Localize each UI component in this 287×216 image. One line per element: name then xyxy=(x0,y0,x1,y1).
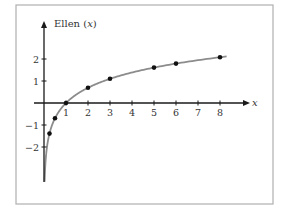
x-tick-label: 5 xyxy=(151,107,157,118)
x-tick-label: 7 xyxy=(195,107,201,118)
data-point xyxy=(108,77,113,82)
chart: 12345678−2−112 Ellen (x) x xyxy=(0,0,287,216)
x-axis-arrow-icon xyxy=(243,100,250,106)
x-tick-label: 3 xyxy=(107,107,113,118)
x-tick-label: 8 xyxy=(217,107,223,118)
data-point xyxy=(47,131,52,136)
data-point xyxy=(64,101,69,106)
y-tick-label: −2 xyxy=(25,142,39,153)
curve xyxy=(45,56,227,181)
y-tick-label: −1 xyxy=(25,120,39,131)
chart-frame xyxy=(16,5,273,204)
x-axis-label: x xyxy=(252,97,258,108)
x-tick-label: 6 xyxy=(173,107,179,118)
data-point xyxy=(174,61,179,66)
data-point xyxy=(86,86,91,91)
data-point xyxy=(152,65,157,70)
data-point xyxy=(218,55,223,60)
x-tick-label: 4 xyxy=(129,107,135,118)
y-axis-label: Ellen (x) xyxy=(54,18,97,29)
data-points xyxy=(47,55,222,136)
x-tick-label: 2 xyxy=(85,107,91,118)
y-axis-arrow-icon xyxy=(41,21,47,28)
y-tick-label: 2 xyxy=(33,54,39,65)
data-point xyxy=(53,116,58,121)
ln-curve xyxy=(45,56,227,181)
y-tick-label: 1 xyxy=(33,76,39,87)
x-tick-label: 1 xyxy=(63,107,69,118)
